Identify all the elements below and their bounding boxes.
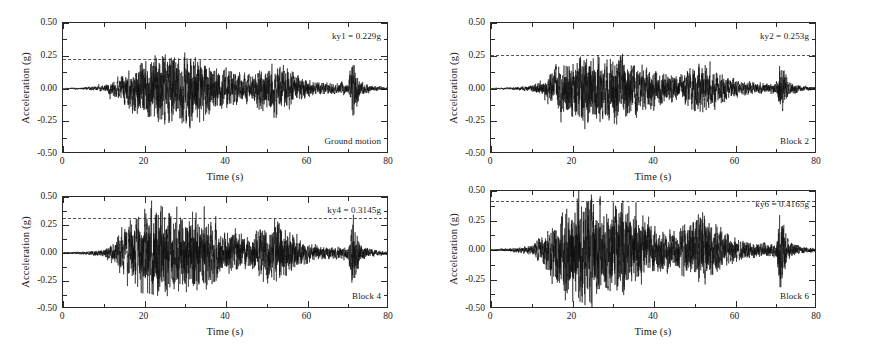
y-tick-minor <box>812 105 816 106</box>
x-tick-label: 80 <box>811 156 821 166</box>
x-tick-major <box>491 23 492 29</box>
y-tick-minor <box>491 235 495 236</box>
y-tick-label: 0.50 <box>468 17 485 27</box>
panel-block-6: ky6 = 0.4165gBlock 60.500.250.00-0.25-0.… <box>0 0 881 350</box>
x-tick-label: 20 <box>139 311 149 321</box>
y-tick-major <box>381 23 387 24</box>
panel-block-6-plot-area: ky6 = 0.4165gBlock 6 <box>490 190 816 308</box>
y-tick-major <box>491 280 497 281</box>
x-tick-major <box>654 146 655 152</box>
x-tick-label: 40 <box>648 156 658 166</box>
y-tick-label: 0.00 <box>468 83 485 93</box>
y-tick-minor <box>812 206 816 207</box>
y-tick-minor <box>384 138 388 139</box>
y-tick-major <box>381 281 387 282</box>
y-tick-label: -0.25 <box>37 275 57 285</box>
x-tick-minor <box>267 23 268 27</box>
panel-block-6-threshold-line <box>491 201 815 202</box>
y-tick-minor <box>812 265 816 266</box>
y-tick-minor <box>384 39 388 40</box>
x-tick-major <box>63 301 64 307</box>
x-tick-label: 60 <box>730 156 740 166</box>
y-axis-title: Acceleration (g) <box>20 28 33 148</box>
x-tick-label: 80 <box>383 311 393 321</box>
x-tick-major <box>226 301 227 307</box>
panel-block-2-trace <box>491 23 816 153</box>
y-tick-major <box>809 121 815 122</box>
y-tick-label: -0.25 <box>465 274 485 284</box>
x-tick-minor <box>267 197 268 201</box>
panel-ground-motion-threshold-line <box>63 59 387 60</box>
panel-block-2-plot-area: ky2 = 0.253gBlock 2 <box>490 22 816 153</box>
y-tick-major <box>63 89 69 90</box>
y-tick-minor <box>63 72 67 73</box>
y-tick-label: 0.00 <box>40 83 57 93</box>
x-tick-major <box>145 301 146 307</box>
y-axis-title: Acceleration (g) <box>20 192 33 312</box>
x-tick-major <box>491 191 492 197</box>
y-tick-label: 0.25 <box>40 50 57 60</box>
y-tick-minor <box>63 105 67 106</box>
y-tick-label: -0.50 <box>465 303 485 313</box>
y-tick-minor <box>63 239 67 240</box>
y-tick-major <box>63 56 69 57</box>
y-tick-minor <box>63 295 67 296</box>
x-tick-major <box>573 191 574 197</box>
x-tick-label: 80 <box>811 311 821 321</box>
x-tick-label: 20 <box>567 156 577 166</box>
y-tick-major <box>491 191 497 192</box>
y-tick-minor <box>812 72 816 73</box>
x-tick-major <box>654 191 655 197</box>
x-tick-minor <box>348 304 349 308</box>
x-tick-minor <box>185 23 186 27</box>
x-tick-major <box>736 191 737 197</box>
y-tick-minor <box>384 267 388 268</box>
x-tick-minor <box>532 149 533 153</box>
x-tick-major <box>736 23 737 29</box>
x-tick-label: 20 <box>139 156 149 166</box>
x-tick-minor <box>695 304 696 308</box>
panel-ground-motion-ky-annotation: ky1 = 0.229g <box>332 31 381 41</box>
x-tick-major <box>491 146 492 152</box>
panel-ground-motion-plot-area: ky1 = 0.229gGround motion <box>62 22 388 153</box>
x-tick-major <box>654 23 655 29</box>
y-tick-label: 0.50 <box>40 17 57 27</box>
x-tick-minor <box>348 23 349 27</box>
x-tick-minor <box>104 23 105 27</box>
y-tick-minor <box>384 295 388 296</box>
y-tick-minor <box>63 267 67 268</box>
y-tick-major <box>491 221 497 222</box>
y-tick-major <box>809 221 815 222</box>
y-tick-minor <box>491 206 495 207</box>
y-tick-minor <box>384 105 388 106</box>
y-tick-major <box>381 56 387 57</box>
x-axis-title: Time (s) <box>490 171 816 182</box>
panel-block-2-block-label: Block 2 <box>780 136 809 146</box>
x-tick-major <box>736 301 737 307</box>
x-tick-major <box>736 146 737 152</box>
panel-block-4-trace <box>63 197 388 308</box>
y-tick-label: 0.25 <box>40 219 57 229</box>
y-tick-major <box>381 253 387 254</box>
y-tick-minor <box>491 138 495 139</box>
y-tick-minor <box>384 239 388 240</box>
x-tick-major <box>308 146 309 152</box>
x-tick-label: 60 <box>302 311 312 321</box>
x-tick-major <box>226 23 227 29</box>
y-tick-minor <box>63 39 67 40</box>
x-tick-minor <box>185 197 186 201</box>
y-tick-label: 0.00 <box>40 247 57 257</box>
y-tick-minor <box>63 138 67 139</box>
x-tick-label: 20 <box>567 311 577 321</box>
x-tick-minor <box>267 149 268 153</box>
panel-block-4-threshold-line <box>63 218 387 219</box>
x-axis-title: Time (s) <box>62 171 388 182</box>
x-tick-major <box>308 197 309 203</box>
y-axis-title: Acceleration (g) <box>448 28 461 148</box>
y-tick-label: 0.25 <box>468 50 485 60</box>
y-tick-minor <box>63 211 67 212</box>
y-tick-major <box>491 56 497 57</box>
y-tick-major <box>63 225 69 226</box>
x-tick-minor <box>776 191 777 195</box>
y-tick-label: -0.50 <box>465 148 485 158</box>
